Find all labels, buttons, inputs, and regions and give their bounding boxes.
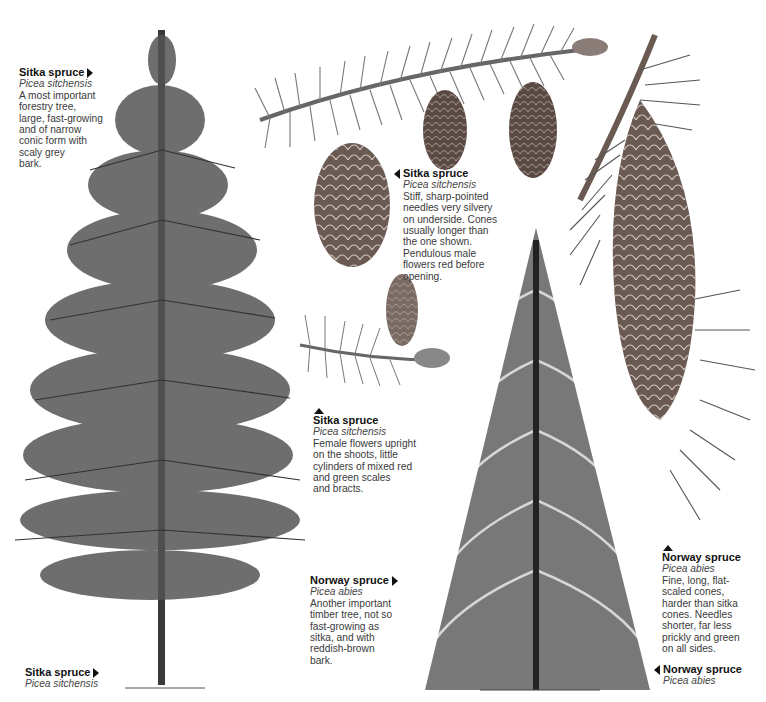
caption-description: Stiff, sharp-pointed needles very silver… — [403, 191, 524, 282]
caption-scientific-name: Picea sitchensis — [19, 78, 129, 89]
pointer-right-icon — [93, 668, 99, 678]
sitka-spruce-female-flower-shoot — [300, 274, 450, 386]
caption-title: Sitka spruce — [25, 667, 90, 678]
caption-title: Sitka spruce — [19, 67, 84, 78]
caption-scientific-name: Picea abies — [662, 563, 766, 574]
caption-scientific-name: Picea sitchensis — [25, 678, 135, 689]
pointer-right-icon — [87, 68, 93, 78]
caption-scientific-name: Picea abies — [654, 675, 764, 686]
caption-title: Sitka spruce — [313, 415, 378, 426]
caption-title: Sitka spruce — [403, 168, 468, 179]
norway-spruce-hanging-cone — [570, 35, 755, 520]
label-sitka-spruce-tree: Sitka spruce Picea sitchensis — [25, 667, 135, 690]
caption-description: Another important timber tree, not so fa… — [310, 598, 420, 666]
caption-norway-spruce-tree: Norway spruce Picea abies Another import… — [310, 575, 420, 666]
label-norway-spruce-tree: Norway spruce Picea abies — [654, 664, 764, 687]
caption-scientific-name: Picea abies — [310, 586, 420, 597]
pointer-right-icon — [392, 576, 398, 586]
caption-description: A most important forestry tree, large, f… — [19, 90, 129, 170]
caption-scientific-name: Picea sitchensis — [313, 426, 433, 437]
caption-scientific-name: Picea sitchensis — [403, 179, 524, 190]
caption-description: Fine, long, flat- scaled cones, harder t… — [662, 575, 766, 655]
caption-title: Norway spruce — [662, 552, 741, 563]
caption-sitka-spruce-tree: Sitka spruce Picea sitchensis A most imp… — [19, 67, 129, 170]
caption-sitka-spruce-female-flowers: Sitka spruce Picea sitchensis Female flo… — [313, 408, 433, 495]
caption-description: Female flowers upright on the shoots, li… — [313, 438, 433, 495]
caption-sitka-spruce-cones: Sitka spruce Picea sitchensis Stiff, sha… — [394, 168, 524, 282]
pointer-left-icon — [654, 665, 660, 675]
caption-title: Norway spruce — [663, 664, 742, 675]
caption-norway-spruce-cone: Norway spruce Picea abies Fine, long, fl… — [662, 545, 766, 655]
pointer-left-icon — [394, 169, 400, 179]
caption-title: Norway spruce — [310, 575, 389, 586]
